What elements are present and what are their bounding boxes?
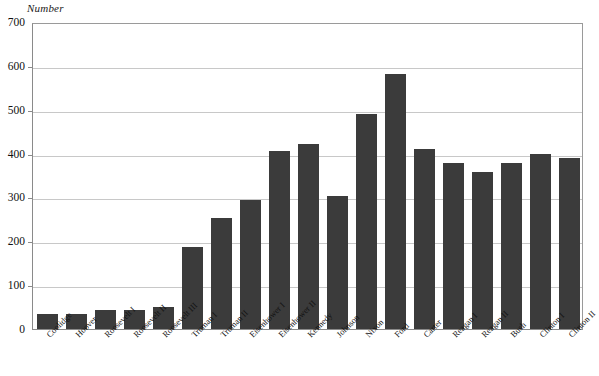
bar	[501, 163, 521, 329]
bar	[530, 154, 550, 329]
y-tick-label: 300	[8, 193, 25, 205]
y-tick-label: 600	[8, 61, 25, 73]
bar	[414, 149, 434, 329]
bar	[472, 172, 492, 329]
bars-layer	[33, 24, 582, 329]
y-tick-label: 400	[8, 149, 25, 161]
y-axis-title: Number	[27, 2, 64, 14]
bar-chart: Number 0100200300400500600700 CoolidgeHo…	[0, 0, 599, 376]
plot-area	[32, 23, 583, 330]
bar	[327, 196, 347, 329]
y-tick-label: 200	[8, 237, 25, 249]
y-tick-label: 700	[8, 17, 25, 29]
y-tick-label: 0	[19, 324, 25, 336]
y-axis-tick-labels: 0100200300400500600700	[0, 0, 32, 376]
bar	[443, 163, 463, 329]
y-tick-label: 100	[8, 280, 25, 292]
y-tick-label: 500	[8, 105, 25, 117]
bar	[385, 74, 405, 329]
bar	[356, 114, 376, 329]
bar	[559, 158, 579, 329]
x-axis-tick-labels: CoolidgeHooverRoosevelt IRoosevelt IIRoo…	[32, 331, 583, 376]
